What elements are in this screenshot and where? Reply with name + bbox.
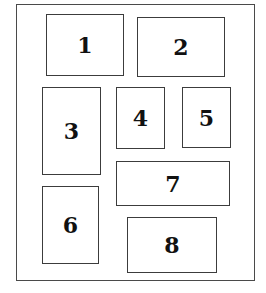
box-7: 7 (116, 161, 230, 206)
box-1-label: 1 (77, 34, 92, 56)
box-5-label: 5 (199, 107, 214, 129)
box-6-label: 6 (63, 214, 78, 236)
box-3: 3 (42, 87, 101, 175)
box-4: 4 (116, 87, 165, 149)
box-1: 1 (46, 14, 124, 76)
box-2: 2 (137, 17, 225, 77)
box-4-label: 4 (133, 107, 148, 129)
box-8: 8 (127, 217, 217, 273)
box-3-label: 3 (64, 120, 79, 142)
box-8-label: 8 (164, 234, 179, 256)
box-2-label: 2 (173, 36, 188, 58)
box-5: 5 (182, 87, 231, 148)
box-7-label: 7 (165, 173, 180, 195)
box-6: 6 (42, 186, 99, 264)
